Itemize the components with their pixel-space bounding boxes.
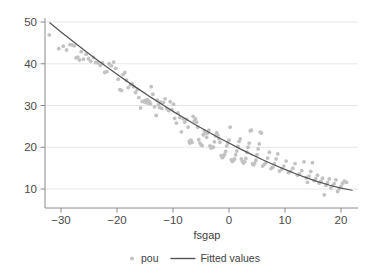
data-point	[153, 105, 157, 109]
data-point	[300, 169, 304, 173]
data-point	[266, 156, 270, 160]
data-point	[322, 193, 326, 197]
data-point	[200, 144, 204, 148]
data-point	[205, 135, 209, 139]
data-point	[235, 149, 239, 153]
data-point	[123, 71, 127, 75]
data-point	[282, 164, 286, 168]
data-point	[137, 96, 141, 100]
y-tick-label-30: 30	[24, 100, 37, 112]
data-point	[309, 170, 313, 174]
data-point	[82, 57, 86, 61]
data-point	[316, 173, 320, 177]
scatter-series-pou	[47, 33, 348, 197]
x-tick-label--10: −10	[163, 214, 183, 226]
x-tick-label--30: −30	[51, 214, 71, 226]
data-point	[194, 117, 198, 121]
data-point	[195, 120, 199, 124]
y-tick-label-10: 10	[24, 183, 37, 195]
data-point	[284, 159, 288, 163]
data-point	[78, 58, 82, 62]
data-point	[267, 150, 271, 154]
data-point	[172, 102, 176, 106]
data-point	[213, 140, 217, 144]
fitted-values-line	[50, 23, 352, 190]
chart-legend: pouFitted values	[130, 252, 260, 264]
data-point	[154, 114, 158, 118]
data-point	[149, 85, 153, 89]
data-point	[244, 157, 248, 161]
data-point	[73, 44, 77, 48]
legend-label-fitted-values: Fitted values	[200, 252, 260, 264]
data-point	[112, 60, 116, 64]
y-tick-label-40: 40	[24, 58, 37, 70]
data-point	[238, 137, 242, 141]
data-point	[257, 142, 261, 146]
data-point	[302, 160, 306, 164]
data-point	[120, 89, 124, 93]
data-point	[246, 145, 250, 149]
data-point	[218, 140, 222, 144]
x-tick-label-20: 20	[335, 214, 348, 226]
data-point	[243, 160, 247, 164]
data-point	[274, 157, 278, 161]
data-point	[345, 180, 349, 184]
data-point	[306, 180, 310, 184]
data-point	[327, 177, 331, 181]
data-point	[254, 158, 258, 162]
data-point	[61, 44, 65, 48]
data-point	[233, 157, 237, 161]
data-point	[260, 131, 264, 135]
x-axis-title: fsgap	[194, 229, 221, 241]
data-point	[173, 117, 177, 121]
data-point	[116, 77, 120, 81]
data-point	[293, 162, 297, 166]
y-tick-label-50: 50	[24, 16, 37, 28]
data-point	[190, 140, 194, 144]
data-point	[224, 150, 228, 154]
x-tick-label--20: −20	[107, 214, 127, 226]
y-axis-tick-labels-group: 1020304050	[24, 16, 37, 195]
data-point	[334, 178, 338, 182]
data-point	[65, 48, 69, 52]
data-point	[321, 176, 325, 180]
data-point	[79, 50, 83, 54]
data-point	[105, 70, 109, 74]
x-axis-tick-labels-group: −30−20−1001020	[51, 214, 347, 226]
data-point	[114, 66, 118, 70]
data-point	[160, 107, 164, 111]
x-axis-ticks-group	[61, 208, 341, 213]
fitted-values-path	[50, 23, 352, 190]
x-tick-label-0: 0	[226, 214, 232, 226]
data-point	[186, 125, 190, 129]
x-tick-label-10: 10	[279, 214, 292, 226]
data-point	[89, 59, 93, 63]
legend-label-pou: pou	[141, 252, 159, 264]
y-tick-label-20: 20	[24, 141, 37, 153]
data-point	[168, 100, 172, 104]
data-point	[227, 138, 231, 142]
data-point	[250, 128, 254, 132]
data-point	[149, 102, 153, 106]
data-point	[276, 152, 280, 156]
data-point	[228, 125, 232, 129]
data-point	[307, 174, 311, 178]
scatter-plot-figure: −30−20−1001020 1020304050 fsgap pouFitte…	[0, 0, 370, 276]
chart-canvas: −30−20−1001020 1020304050 fsgap pouFitte…	[0, 0, 370, 276]
data-point	[311, 161, 315, 165]
data-point	[110, 64, 114, 68]
data-point	[332, 182, 336, 186]
data-point	[180, 130, 184, 134]
y-axis-ticks-group	[41, 22, 46, 189]
data-point	[57, 47, 61, 51]
data-point	[197, 138, 201, 142]
data-point	[234, 153, 238, 157]
data-point	[174, 121, 178, 125]
data-point	[256, 147, 260, 151]
data-point	[139, 106, 143, 110]
data-point	[151, 92, 155, 96]
data-point	[291, 166, 295, 170]
legend-marker-dot	[130, 257, 134, 261]
data-point	[271, 165, 275, 169]
data-point	[47, 33, 51, 37]
